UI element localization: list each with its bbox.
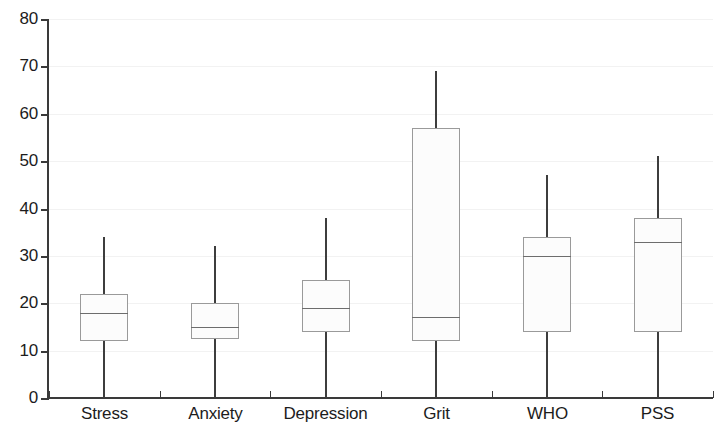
median-line bbox=[302, 308, 350, 309]
y-axis-tick-label: 50 bbox=[2, 152, 38, 169]
y-axis-tick-label: 40 bbox=[2, 200, 38, 217]
y-axis-tick-label: 10 bbox=[2, 342, 38, 359]
interquartile-box bbox=[191, 303, 239, 339]
gridline bbox=[49, 303, 713, 304]
x-axis-tick bbox=[160, 391, 161, 398]
y-axis-tick bbox=[41, 209, 49, 211]
upper-whisker bbox=[214, 246, 216, 303]
y-axis-tick-label: 60 bbox=[2, 105, 38, 122]
x-axis-label-stress: Stress bbox=[49, 404, 160, 424]
x-axis-label-who: WHO bbox=[492, 404, 603, 424]
lower-whisker bbox=[214, 339, 216, 398]
y-axis-tick bbox=[41, 161, 49, 163]
y-axis-tick bbox=[41, 351, 49, 353]
upper-whisker bbox=[103, 237, 105, 294]
gridline bbox=[49, 114, 713, 115]
gridline bbox=[49, 66, 713, 67]
lower-whisker bbox=[435, 341, 437, 398]
interquartile-box bbox=[634, 218, 682, 332]
median-line bbox=[80, 313, 128, 314]
x-axis-label-pss: PSS bbox=[602, 404, 713, 424]
y-axis-tick-label: 30 bbox=[2, 247, 38, 264]
lower-whisker bbox=[103, 341, 105, 398]
upper-whisker bbox=[657, 156, 659, 218]
gridline bbox=[49, 256, 713, 257]
y-axis-tick-label: 20 bbox=[2, 294, 38, 311]
gridline bbox=[49, 161, 713, 162]
y-axis-tick bbox=[41, 256, 49, 258]
y-axis-tick-label: 0 bbox=[2, 389, 38, 406]
x-axis-tick bbox=[381, 391, 382, 398]
median-line bbox=[634, 242, 682, 243]
upper-whisker bbox=[546, 175, 548, 237]
x-axis-line bbox=[47, 397, 713, 399]
y-axis-tick-label: 70 bbox=[2, 57, 38, 74]
upper-whisker bbox=[325, 218, 327, 280]
x-axis-tick bbox=[270, 391, 271, 398]
y-axis-tick bbox=[41, 114, 49, 116]
median-line bbox=[191, 327, 239, 328]
lower-whisker bbox=[657, 332, 659, 398]
interquartile-box bbox=[302, 280, 350, 332]
x-axis-tick bbox=[49, 391, 50, 398]
y-axis-tick-label: 80 bbox=[2, 10, 38, 27]
y-axis-tick bbox=[41, 303, 49, 305]
box-plot-chart: 80706050403020100 StressAnxietyDepressio… bbox=[0, 0, 717, 433]
y-axis-tick bbox=[41, 19, 49, 21]
x-axis-label-depression: Depression bbox=[270, 404, 381, 424]
lower-whisker bbox=[546, 332, 548, 398]
x-axis-tick bbox=[492, 391, 493, 398]
y-axis-tick bbox=[41, 66, 49, 68]
gridline bbox=[49, 209, 713, 210]
median-line bbox=[523, 256, 571, 257]
x-axis-label-grit: Grit bbox=[381, 404, 492, 424]
gridline bbox=[49, 19, 713, 20]
interquartile-box bbox=[523, 237, 571, 332]
x-axis-label-anxiety: Anxiety bbox=[160, 404, 271, 424]
median-line bbox=[412, 317, 460, 318]
lower-whisker bbox=[325, 332, 327, 398]
upper-whisker bbox=[435, 71, 437, 128]
x-axis-tick bbox=[602, 391, 603, 398]
interquartile-box bbox=[80, 294, 128, 341]
x-axis-tick bbox=[713, 391, 714, 398]
interquartile-box bbox=[412, 128, 460, 341]
gridline bbox=[49, 351, 713, 352]
